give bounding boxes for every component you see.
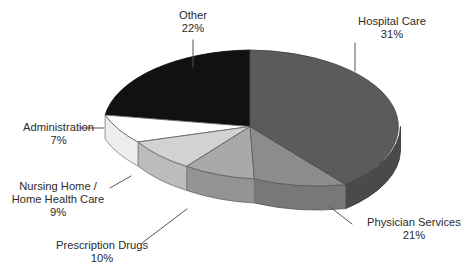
slice-label-other-text: Other bbox=[145, 9, 241, 22]
leader-line-physician-services bbox=[330, 207, 352, 224]
slice-label-nursing-home-health-care-text-line1: Nursing Home / bbox=[3, 180, 113, 193]
leader-line-nursing-home-health-care bbox=[110, 176, 131, 188]
leader-line-prescription-drugs bbox=[142, 209, 187, 243]
slice-label-administration: Administration 7% bbox=[8, 121, 109, 147]
slice-label-other-value: 22% bbox=[145, 22, 241, 35]
slice-label-administration-text: Administration bbox=[8, 121, 109, 134]
slice-label-physician-services-value: 21% bbox=[358, 229, 470, 242]
slice-label-physician-services-text: Physician Services bbox=[358, 216, 470, 229]
slice-label-hospital-care-value: 31% bbox=[322, 28, 462, 41]
slice-label-other: Other 22% bbox=[145, 9, 241, 35]
slice-label-administration-value: 7% bbox=[8, 134, 109, 147]
slice-label-prescription-drugs-value: 10% bbox=[34, 252, 170, 265]
slice-label-hospital-care: Hospital Care 31% bbox=[322, 15, 462, 41]
slice-label-physician-services: Physician Services 21% bbox=[358, 216, 470, 242]
slice-label-hospital-care-text: Hospital Care bbox=[322, 15, 462, 28]
slice-label-prescription-drugs-text: Prescription Drugs bbox=[34, 239, 170, 252]
slice-label-nursing-home-health-care: Nursing Home / Home Health Care 9% bbox=[3, 180, 113, 220]
pie-chart-figure: Other 22% Hospital Care 31% Physician Se… bbox=[0, 0, 471, 279]
slice-label-nursing-home-health-care-text-line2: Home Health Care bbox=[3, 193, 113, 206]
slice-top-other bbox=[105, 50, 250, 127]
slice-label-nursing-home-health-care-value: 9% bbox=[3, 206, 113, 219]
slice-label-prescription-drugs: Prescription Drugs 10% bbox=[34, 239, 170, 265]
